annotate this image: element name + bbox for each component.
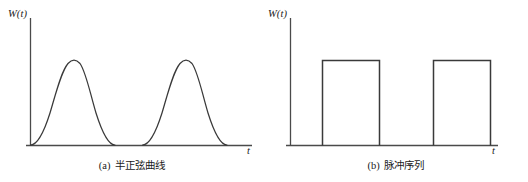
caption-text: 半正弦曲线: [115, 160, 165, 171]
pulse-rect-1: [323, 61, 380, 146]
caption-tag: (b): [368, 160, 380, 171]
panel-caption: (a) 半正弦曲线: [0, 160, 264, 172]
y-axis-label: W(t): [8, 9, 27, 20]
x-axis-label: t: [247, 146, 250, 157]
panel-caption: (b) 脉冲序列: [264, 160, 528, 172]
panel-pulse-train: W(t) t (b) 脉冲序列: [264, 0, 528, 182]
sine-arch-2: [143, 60, 228, 145]
figure-container: W(t) t (a) 半正弦曲线 W(t) t (b) 脉冲序列: [0, 0, 528, 182]
caption-tag: (a): [99, 160, 111, 171]
y-axis-label: W(t): [268, 9, 287, 20]
pulse-rect-2: [434, 61, 491, 146]
half-sine-plot: [0, 0, 264, 182]
pulse-train-plot: [264, 0, 528, 182]
x-axis-label: t: [492, 146, 495, 157]
sine-arch-1: [31, 60, 116, 145]
caption-text: 脉冲序列: [384, 160, 424, 171]
panel-half-sine: W(t) t (a) 半正弦曲线: [0, 0, 264, 182]
